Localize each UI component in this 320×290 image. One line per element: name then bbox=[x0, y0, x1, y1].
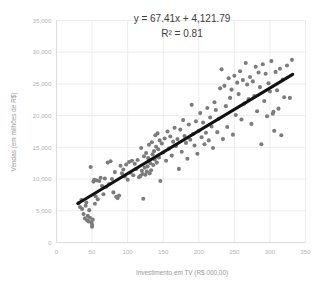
data-point bbox=[257, 70, 261, 74]
data-point bbox=[175, 137, 179, 141]
y-axis-tick-labels: 05,00010,00015,00020,00025,00030,00035,0… bbox=[33, 17, 52, 246]
data-point bbox=[81, 212, 85, 216]
data-point bbox=[288, 96, 292, 100]
data-point bbox=[285, 63, 289, 67]
data-point bbox=[229, 88, 233, 92]
data-point bbox=[264, 72, 268, 76]
data-point bbox=[271, 110, 275, 114]
data-point bbox=[190, 103, 194, 107]
data-point bbox=[262, 99, 266, 103]
data-point bbox=[89, 165, 93, 169]
data-point bbox=[225, 125, 229, 129]
y-tick-label: 15,000 bbox=[33, 144, 52, 151]
data-point bbox=[163, 136, 167, 140]
data-point bbox=[180, 150, 184, 154]
data-point bbox=[195, 152, 199, 156]
y-tick-label: 0 bbox=[48, 239, 52, 246]
data-point bbox=[87, 208, 91, 212]
data-point bbox=[198, 111, 202, 115]
y-tick-label: 5,000 bbox=[36, 207, 52, 214]
x-tick-label: 250 bbox=[229, 248, 240, 255]
data-point bbox=[185, 157, 189, 161]
data-point bbox=[259, 142, 263, 146]
x-tick-label: 350 bbox=[300, 248, 311, 255]
y-axis-title: Vendas (em milhões de R$) bbox=[10, 93, 18, 172]
data-point bbox=[184, 141, 188, 145]
data-point bbox=[278, 67, 282, 71]
data-point bbox=[113, 170, 117, 174]
data-point bbox=[151, 163, 155, 167]
data-point bbox=[146, 164, 150, 168]
data-point bbox=[131, 173, 135, 177]
data-point bbox=[221, 137, 225, 141]
data-point bbox=[93, 202, 97, 206]
data-point bbox=[103, 176, 107, 180]
data-point bbox=[269, 59, 273, 63]
data-point bbox=[244, 61, 248, 65]
data-point bbox=[276, 107, 280, 111]
data-point bbox=[258, 85, 262, 89]
scatter-points bbox=[77, 58, 295, 229]
data-point bbox=[149, 168, 153, 172]
regression-equation-label: y = 67.41x + 4,121.79 bbox=[134, 13, 231, 24]
data-point bbox=[170, 154, 174, 158]
data-point bbox=[109, 159, 113, 163]
y-tick-label: 20,000 bbox=[33, 112, 52, 119]
data-point bbox=[274, 70, 278, 74]
data-point bbox=[212, 100, 216, 104]
x-tick-label: 0 bbox=[55, 248, 59, 255]
data-point bbox=[121, 168, 125, 172]
data-point bbox=[207, 138, 211, 142]
data-point bbox=[232, 74, 236, 78]
data-point bbox=[126, 178, 130, 182]
data-point bbox=[266, 81, 270, 85]
data-point bbox=[178, 128, 182, 132]
data-point bbox=[117, 194, 121, 198]
data-point bbox=[155, 131, 159, 135]
data-point bbox=[211, 146, 215, 150]
data-point bbox=[139, 146, 143, 150]
x-axis-tick-labels: 050100150200250300350 bbox=[55, 248, 311, 255]
x-tick-label: 150 bbox=[158, 248, 169, 255]
y-tick-label: 35,000 bbox=[33, 17, 52, 24]
data-point bbox=[156, 147, 160, 151]
r-squared-label: R² = 0.81 bbox=[161, 28, 203, 39]
x-tick-label: 200 bbox=[194, 248, 205, 255]
data-point bbox=[224, 104, 228, 108]
data-point bbox=[152, 149, 156, 153]
data-point bbox=[130, 159, 134, 163]
data-point bbox=[272, 129, 276, 133]
x-axis-title: Investimento em TV (R$ 000,00) bbox=[136, 269, 228, 277]
data-point bbox=[265, 114, 269, 118]
data-point bbox=[158, 179, 162, 183]
data-point bbox=[279, 133, 283, 137]
data-point bbox=[227, 76, 231, 80]
data-point bbox=[208, 116, 212, 120]
data-point bbox=[205, 106, 209, 110]
data-point bbox=[238, 69, 242, 73]
data-point bbox=[222, 84, 226, 88]
data-point bbox=[181, 118, 185, 122]
data-point bbox=[254, 65, 258, 69]
data-point bbox=[200, 135, 204, 139]
data-point bbox=[155, 161, 159, 165]
data-point bbox=[194, 119, 198, 123]
data-point bbox=[214, 108, 218, 112]
data-point bbox=[231, 133, 235, 137]
data-point bbox=[84, 200, 88, 204]
x-tick-label: 300 bbox=[265, 248, 276, 255]
data-point bbox=[144, 151, 148, 155]
trendline bbox=[78, 74, 293, 203]
data-point bbox=[168, 135, 172, 139]
x-tick-label: 50 bbox=[89, 248, 96, 255]
data-point bbox=[118, 164, 122, 168]
data-point bbox=[251, 79, 255, 83]
data-point bbox=[202, 142, 206, 146]
data-point bbox=[237, 92, 241, 96]
data-point bbox=[187, 122, 191, 126]
data-point bbox=[80, 207, 84, 211]
chart-canvas: 05,00010,00015,00020,00025,00030,00035,0… bbox=[0, 0, 320, 290]
regression-trendline bbox=[78, 74, 293, 203]
data-point bbox=[101, 192, 105, 196]
data-point bbox=[245, 83, 249, 87]
